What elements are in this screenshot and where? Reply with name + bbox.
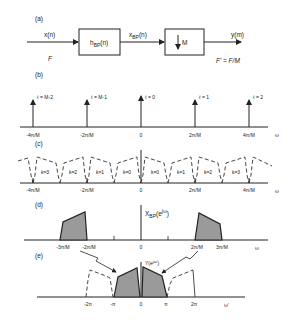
band-label-6: k=2 [204, 169, 212, 175]
impulse-label-2: ℓ = 0 [145, 94, 155, 100]
negative-band-spectrum [60, 212, 87, 240]
band-label-4: k=0 [151, 169, 159, 175]
positive-band-spectrum [195, 213, 222, 240]
panel-c-filter-bands: (c) k=3 k=2 k=1 k=0 k=0 k=1 k=2 k=3 -4π/… [18, 140, 279, 194]
d-axis-label: ω [255, 245, 259, 251]
d-function-label: XBP(ejω) [145, 208, 169, 219]
d-tick-1: -2π/M [82, 244, 95, 250]
decimator-factor-label: M [182, 39, 187, 46]
panel-e-decimated-spectrum: (e) Y(ejω') -2π -π 0 π 2π ω' [35, 252, 245, 308]
impulse-label-1: ℓ = M-1 [91, 94, 107, 100]
b-tick-1: -2π/M [80, 132, 93, 138]
impulse-label-3: ℓ = 1 [199, 94, 209, 100]
b-axis-label: ω [275, 132, 279, 138]
band-shape-9 [249, 157, 272, 183]
panel-c-label: (c) [35, 140, 43, 148]
e-function-label: Y(ejω') [145, 259, 160, 266]
band-shape-0 [18, 158, 33, 183]
input-rate-label: F [48, 55, 53, 62]
band-label-0: k=3 [41, 169, 49, 175]
e-tick-1: -π [110, 301, 116, 307]
panel-a-label: (a) [35, 15, 43, 23]
band-label-5: k=1 [177, 169, 185, 175]
c-tick-1: -2π/M [80, 187, 93, 193]
panel-a-block-diagram: (a) x(n) F hBP(n) xBP(n) M y(m) F' = F/M [27, 15, 244, 64]
e-tick-0: -2π [84, 301, 92, 307]
alias-replica-right-dashed [167, 270, 193, 297]
filtered-signal-label: xBP(n) [129, 31, 147, 40]
baseband-spectrum-left [114, 268, 140, 297]
panel-e-label: (e) [35, 252, 43, 260]
output-rate-label: F' = F/M [216, 57, 240, 64]
c-tick-3: 2π/M [189, 187, 201, 193]
panel-b-impulses: (b) ℓ = M-2 ℓ = M-1 ℓ = 0 ℓ = 1 ℓ = 2 -4… [20, 71, 279, 138]
output-signal-label: y(m) [231, 31, 244, 39]
e-tick-2: 0 [140, 301, 143, 307]
c-tick-0: -4π/M [26, 187, 39, 193]
b-tick-2: 0 [140, 132, 143, 138]
panel-b-label: (b) [35, 71, 43, 79]
alias-replica-right-edge [193, 270, 195, 297]
e-tick-3: π [164, 301, 168, 307]
band-label-1: k=2 [69, 169, 77, 175]
d-tick-2: 0 [140, 244, 143, 250]
baseband-spectrum-right [142, 267, 167, 297]
b-tick-0: -4π/M [26, 132, 39, 138]
d-tick-3: 2π/M [191, 244, 203, 250]
c-axis-label: ω [275, 188, 279, 194]
b-tick-4: 4π/M [243, 132, 255, 138]
impulse-label-4: ℓ = 2 [253, 94, 263, 100]
d-tick-4: 3π/M [216, 244, 228, 250]
impulse-label-0: ℓ = M-2 [37, 94, 53, 100]
panel-d-label: (d) [35, 201, 43, 209]
c-tick-4: 4π/M [243, 187, 255, 193]
d-tick-0: -3π/M [56, 244, 69, 250]
panel-d-bandpass-spectrum: (d) XBP(ejω) -3π/M -2π/M 0 2π/M 3π/M ω [24, 201, 268, 251]
input-signal-label: x(n) [44, 31, 55, 39]
alias-replica-left [86, 270, 113, 297]
e-axis-label: ω' [224, 302, 229, 308]
bandpass-decimation-diagram: (a) x(n) F hBP(n) xBP(n) M y(m) F' = F/M… [0, 0, 293, 325]
mapping-arrow-left [80, 251, 116, 272]
b-tick-3: 2π/M [189, 132, 201, 138]
c-tick-2: 0 [140, 187, 143, 193]
band-label-7: k=3 [232, 169, 240, 175]
bandpass-filter-label: hBP(n) [90, 39, 108, 48]
band-label-2: k=1 [96, 169, 104, 175]
band-label-3: k=0 [123, 169, 131, 175]
e-tick-4: 2π [191, 301, 198, 307]
